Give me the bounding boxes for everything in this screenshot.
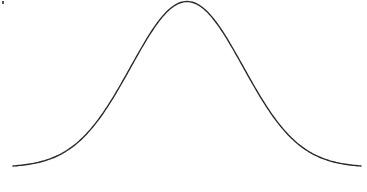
bell-curve-line: [13, 2, 361, 167]
bell-curve-diagram: [0, 0, 367, 192]
